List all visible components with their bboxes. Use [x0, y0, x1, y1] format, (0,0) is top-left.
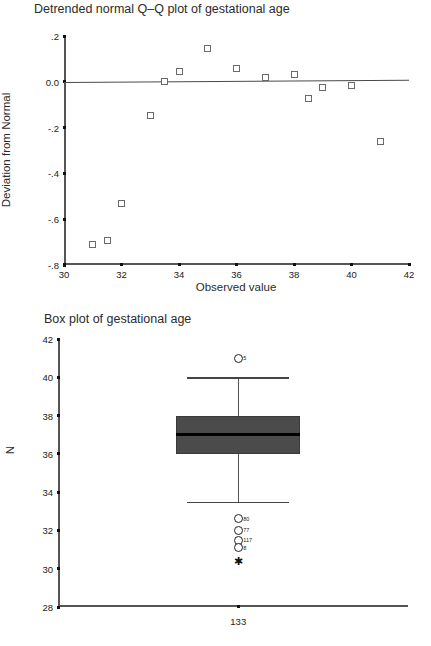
- box-outlier-label: 80: [243, 516, 249, 522]
- qq-data-point: [161, 78, 168, 85]
- qq-data-point: [176, 68, 183, 75]
- qq-x-tick: [120, 263, 123, 266]
- box-y-tick-label: 36: [42, 448, 53, 459]
- qq-x-tick-label: 32: [116, 269, 127, 280]
- box-y-tick-label: 40: [42, 372, 53, 383]
- box-y-tick: [57, 414, 60, 417]
- box-outlier-label: 77: [243, 527, 249, 533]
- box-y-tick: [57, 491, 60, 494]
- qq-data-point: [348, 82, 355, 89]
- box-y-tick-label: 30: [42, 563, 53, 574]
- qq-x-tick-label: 38: [289, 269, 300, 280]
- qq-data-point: [319, 84, 326, 91]
- box-whisker-cap-upper: [187, 377, 289, 378]
- qq-data-point: [377, 138, 384, 145]
- box-plot-title: Box plot of gestational age: [44, 312, 191, 326]
- qq-plot-area: .20.0-.2-.4-.6-.830323436384042: [64, 36, 409, 265]
- box-whisker-lower: [238, 454, 239, 502]
- qq-data-point: [118, 200, 125, 207]
- qq-x-tick-label: 30: [59, 269, 70, 280]
- qq-data-point: [147, 112, 154, 119]
- box-outlier-marker: [234, 514, 243, 523]
- qq-data-point: [104, 237, 111, 244]
- box-outlier-marker: [234, 543, 243, 552]
- qq-data-point: [89, 241, 96, 248]
- qq-reference-line: [64, 80, 409, 83]
- qq-data-point: [204, 45, 211, 52]
- box-y-tick-label: 38: [42, 410, 53, 421]
- qq-x-tick: [293, 263, 296, 266]
- qq-x-tick-label: 34: [174, 269, 185, 280]
- qq-y-tick: [63, 126, 66, 129]
- box-y-tick: [57, 529, 60, 532]
- box-y-tick-label: 28: [42, 602, 53, 613]
- qq-y-tick-label: -.8: [48, 260, 59, 271]
- box-plot-area: 4240383634323028580771178✱133: [58, 339, 408, 607]
- box-outlier-marker: [234, 354, 243, 363]
- qq-y-tick-label: -.4: [48, 168, 59, 179]
- qq-y-axis-title: Deviation from Normal: [0, 93, 12, 207]
- qq-x-tick: [235, 263, 238, 266]
- qq-x-axis-title: Observed value: [196, 281, 277, 293]
- box-whisker-cap-lower: [187, 502, 289, 503]
- box-plot-panel: Box plot of gestational age N 4240383634…: [0, 300, 431, 646]
- qq-x-tick: [63, 263, 66, 266]
- qq-y-tick-label: -.2: [48, 122, 59, 133]
- qq-x-tick: [350, 263, 353, 266]
- box-outlier-label: 5: [243, 355, 246, 361]
- box-median-line: [176, 433, 300, 436]
- qq-y-tick-label: 0.0: [46, 76, 59, 87]
- box-outlier-label: 117: [243, 537, 252, 543]
- qq-x-tick: [178, 263, 181, 266]
- qq-y-tick-label: -.6: [48, 214, 59, 225]
- qq-y-axis: [64, 36, 66, 265]
- qq-x-tick-label: 36: [231, 269, 242, 280]
- qq-plot-title: Detrended normal Q–Q plot of gestational…: [34, 2, 290, 16]
- qq-y-tick: [63, 172, 66, 175]
- qq-data-point: [305, 95, 312, 102]
- box-y-tick: [57, 567, 60, 570]
- box-category-label: 133: [230, 616, 246, 627]
- qq-x-tick-label: 40: [346, 269, 357, 280]
- box-x-tick: [237, 605, 240, 608]
- box-y-tick-label: 42: [42, 334, 53, 345]
- box-y-tick: [57, 606, 60, 609]
- qq-data-point: [262, 74, 269, 81]
- qq-data-point: [233, 65, 240, 72]
- qq-plot-panel: Detrended normal Q–Q plot of gestational…: [0, 0, 431, 300]
- box-outlier-marker: [234, 526, 243, 535]
- qq-y-tick-label: .2: [51, 31, 59, 42]
- qq-y-tick: [63, 35, 66, 38]
- box-y-tick: [57, 338, 60, 341]
- qq-x-tick-label: 42: [404, 269, 415, 280]
- box-y-axis-title: N: [4, 446, 16, 454]
- qq-x-tick: [408, 263, 411, 266]
- qq-data-point: [291, 71, 298, 78]
- qq-y-tick: [63, 218, 66, 221]
- box-y-tick-label: 34: [42, 487, 53, 498]
- box-y-tick: [57, 452, 60, 455]
- box-x-axis: [58, 605, 408, 607]
- box-outlier-label: 8: [243, 545, 246, 551]
- box-whisker-upper: [238, 377, 239, 415]
- box-y-tick-label: 32: [42, 525, 53, 536]
- box-y-tick: [57, 376, 60, 379]
